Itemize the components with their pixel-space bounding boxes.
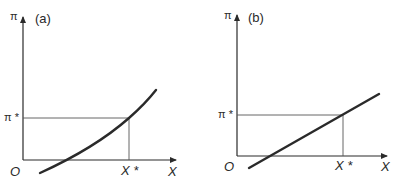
diagram-canvas — [0, 0, 394, 179]
panel-a-y-axis-label: π — [10, 11, 18, 22]
panel-a-pi-star-label: π * — [4, 112, 19, 123]
panel-a — [23, 17, 176, 173]
panel-b-x-star-label: X * — [335, 159, 352, 172]
panel-b-pi-star-label: π * — [218, 109, 233, 120]
panel-b — [237, 15, 387, 168]
panel-a-title: (a) — [35, 12, 51, 25]
panel-b-y-axis-label: π — [224, 10, 232, 21]
panel-b-origin-label: O — [224, 160, 234, 173]
panel-a-origin-label: O — [10, 165, 20, 178]
panel-b-line — [249, 94, 379, 168]
panel-b-x-axis-label: X — [381, 160, 390, 173]
panel-a-x-axis-label: X — [168, 165, 177, 178]
panel-a-x-star-label: X * — [121, 164, 138, 177]
panel-b-title: (b) — [248, 11, 264, 24]
